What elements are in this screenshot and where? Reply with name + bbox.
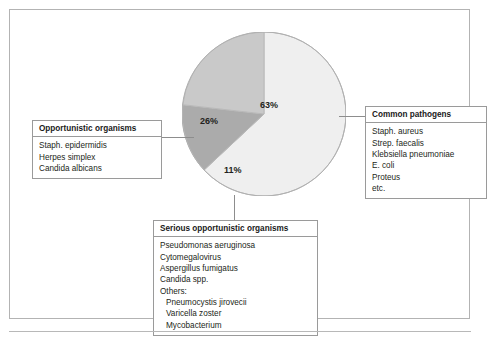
list-item: Candida spp. [160,274,312,285]
callout-box-opportunistic: Opportunistic organisms Staph. epidermid… [32,120,162,179]
callout-box-serious-opportunistic: Serious opportunistic organisms Pseudomo… [153,220,318,336]
pie-slice-opportunistic [183,32,264,114]
list-item: Staph. epidermidis [39,140,156,151]
list-item: Mycobacterium [160,320,312,331]
connector-line-common-pathogens [339,116,365,117]
pie-label-opportunistic: 26% [200,116,218,126]
list-item: Pneumocystis jirovecii [160,297,312,308]
figure-frame: 63% 26% 11% Opportunistic organisms Stap… [9,9,470,319]
callout-box-serious-opportunistic-title: Serious opportunistic organisms [154,221,317,237]
pie-label-common-pathogens: 63% [260,100,278,110]
list-item: Herpes simplex [39,152,156,163]
list-item: Proteus [372,172,481,183]
list-item: Aspergillus fumigatus [160,263,312,274]
connector-line-opportunistic [162,137,194,138]
pie-chart-svg [182,32,346,196]
list-item: E. coli [372,160,481,171]
list-item: Varicella zoster [160,308,312,319]
list-item: Staph. aureus [372,126,481,137]
pie-chart: 63% 26% 11% [182,32,346,196]
list-item: Pseudomonas aeruginosa [160,240,312,251]
callout-box-common-pathogens: Common pathogens Staph. aureus Strep. fa… [365,106,487,199]
callout-box-opportunistic-list: Staph. epidermidis Herpes simplex Candid… [33,137,161,178]
list-item: Klebsiella pneumoniae [372,149,481,160]
list-item: Candida albicans [39,163,156,174]
list-item: etc. [372,183,481,194]
callout-box-common-pathogens-list: Staph. aureus Strep. faecalis Klebsiella… [366,123,486,198]
connector-line-serious-opportunistic [234,195,235,221]
pie-label-serious-opportunistic: 11% [224,165,242,175]
callout-box-common-pathogens-title: Common pathogens [366,107,486,123]
callout-box-serious-opportunistic-list: Pseudomonas aeruginosa Cytomegalovirus A… [154,237,317,335]
list-item: Strep. faecalis [372,138,481,149]
list-item: Others: [160,286,312,297]
list-item: Cytomegalovirus [160,252,312,263]
callout-box-opportunistic-title: Opportunistic organisms [33,121,161,137]
figure-baseline-rule [9,331,471,332]
